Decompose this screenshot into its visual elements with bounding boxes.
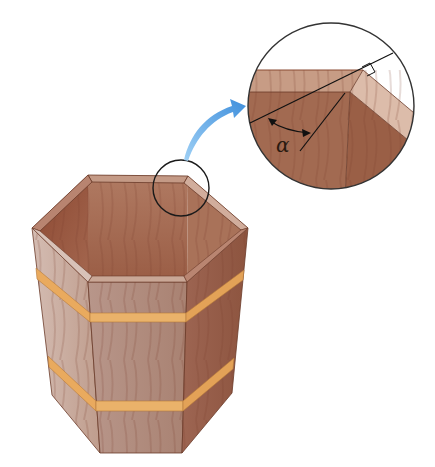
angle-alpha-label: α: [276, 133, 290, 157]
magnified-detail: α: [240, 23, 420, 200]
rim-front: [88, 276, 187, 282]
bucket: [32, 175, 248, 453]
bucket-diagram: α: [0, 0, 435, 467]
curved-arrow-icon: [184, 99, 246, 161]
rim-back: [88, 175, 188, 183]
